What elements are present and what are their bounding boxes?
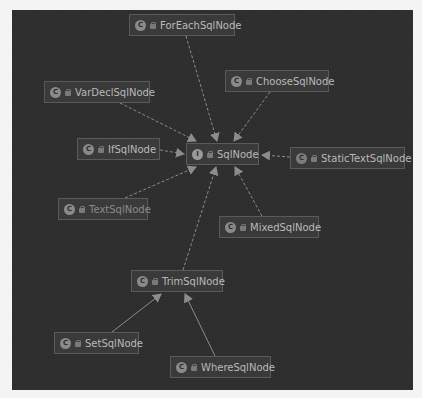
node-label: TrimSqlNode	[162, 276, 225, 287]
lock-icon	[240, 224, 246, 231]
class-icon: C	[225, 222, 236, 233]
node-trim-sql-node[interactable]: C TrimSqlNode	[131, 270, 223, 292]
node-sql-node[interactable]: I SqlNode	[186, 143, 259, 165]
node-text-sql-node[interactable]: C TextSqlNode	[58, 198, 148, 220]
class-icon: C	[60, 338, 71, 349]
node-label: StaticTextSqlNode	[321, 153, 411, 164]
node-foreach-sql-node[interactable]: C ForEachSqlNode	[129, 14, 235, 36]
lock-icon	[98, 146, 104, 153]
node-label: MixedSqlNode	[250, 222, 321, 233]
node-label: ChooseSqlNode	[256, 76, 335, 87]
node-set-sql-node[interactable]: C SetSqlNode	[54, 332, 139, 354]
node-label: TextSqlNode	[89, 204, 151, 215]
node-vardecl-sql-node[interactable]: C VarDeclSqlNode	[44, 81, 150, 103]
lock-icon	[191, 364, 197, 371]
class-icon: C	[64, 204, 75, 215]
lock-icon	[246, 78, 252, 85]
lock-icon	[65, 89, 71, 96]
node-label: VarDeclSqlNode	[75, 87, 155, 98]
class-icon: C	[296, 153, 307, 164]
node-where-sql-node[interactable]: C WhereSqlNode	[170, 356, 271, 378]
class-icon: C	[50, 87, 61, 98]
lock-icon	[79, 206, 85, 213]
node-label: ForEachSqlNode	[160, 20, 241, 31]
lock-icon	[150, 22, 156, 29]
node-label: WhereSqlNode	[201, 362, 275, 373]
lock-icon	[75, 340, 81, 347]
node-label: IfSqlNode	[108, 144, 156, 155]
class-icon: C	[176, 362, 187, 373]
node-statictext-sql-node[interactable]: C StaticTextSqlNode	[290, 147, 405, 169]
class-icon: C	[137, 276, 148, 287]
node-label: SqlNode	[217, 149, 259, 160]
lock-icon	[311, 155, 317, 162]
interface-icon: I	[192, 149, 203, 160]
lock-icon	[207, 151, 213, 158]
class-icon: C	[83, 144, 94, 155]
node-label: SetSqlNode	[85, 338, 143, 349]
class-icon: C	[231, 76, 242, 87]
lock-icon	[152, 278, 158, 285]
class-icon: C	[135, 20, 146, 31]
node-choose-sql-node[interactable]: C ChooseSqlNode	[225, 70, 329, 92]
node-if-sql-node[interactable]: C IfSqlNode	[77, 138, 160, 160]
node-mixed-sql-node[interactable]: C MixedSqlNode	[219, 216, 319, 238]
